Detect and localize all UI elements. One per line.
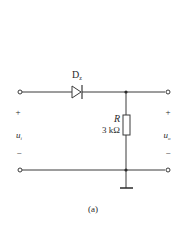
resistor-symbol: R	[113, 113, 120, 124]
figure-caption: (a)	[88, 204, 98, 214]
output-minus: −	[165, 148, 170, 158]
output-voltage-label: uo	[164, 130, 172, 141]
input-terminal-top	[18, 90, 22, 94]
output-terminal-top	[166, 90, 170, 94]
output-plus: +	[165, 107, 170, 117]
input-minus: −	[16, 148, 21, 158]
zener-diode-icon	[72, 85, 82, 99]
resistor-icon	[123, 115, 130, 135]
input-terminal-bottom	[18, 168, 22, 172]
output-terminal-bottom	[166, 168, 170, 172]
junction-dot-bottom	[124, 168, 127, 171]
input-plus: +	[15, 107, 20, 117]
diode-label: Dz	[72, 69, 82, 81]
junction-dot-top	[124, 90, 127, 93]
resistor-value: 3 kΩ	[102, 125, 120, 135]
circuit-diagram: Dz R 3 kΩ + ui − + uo − (a)	[0, 0, 186, 229]
input-voltage-label: ui	[16, 130, 23, 141]
